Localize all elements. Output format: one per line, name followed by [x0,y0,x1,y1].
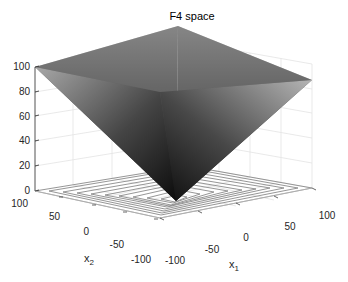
x2-tick-100: 100 [11,198,28,209]
x2-tick-50: 50 [49,211,61,222]
z-tick-20: 20 [19,160,31,171]
surface-plot: 100 80 60 40 20 0 100 50 0 -50 -100 x2 [0,0,348,282]
x2-axis-label: x2 [84,252,95,267]
x1-tick-neg50: -50 [205,244,220,255]
surface [35,26,312,201]
figure: 100 80 60 40 20 0 100 50 0 -50 -100 x2 [0,0,348,282]
x2-tick-0: 0 [83,226,89,237]
x1-tick-neg100: -100 [165,255,185,266]
x1-tick-0: 0 [243,232,249,243]
chart-title: F4 space [169,10,214,22]
x1-tick-100: 100 [319,210,336,221]
z-tick-40: 40 [19,135,31,146]
x1-axis-label: x1 [229,258,240,273]
x2-tick-neg100: -100 [131,254,151,265]
z-tick-80: 80 [19,86,31,97]
z-axis: 100 80 60 40 20 0 [13,61,39,196]
z-tick-0: 0 [24,185,30,196]
z-tick-100: 100 [13,61,30,72]
x1-tick-50: 50 [284,221,296,232]
z-tick-60: 60 [19,111,31,122]
x2-tick-neg50: -50 [110,239,125,250]
